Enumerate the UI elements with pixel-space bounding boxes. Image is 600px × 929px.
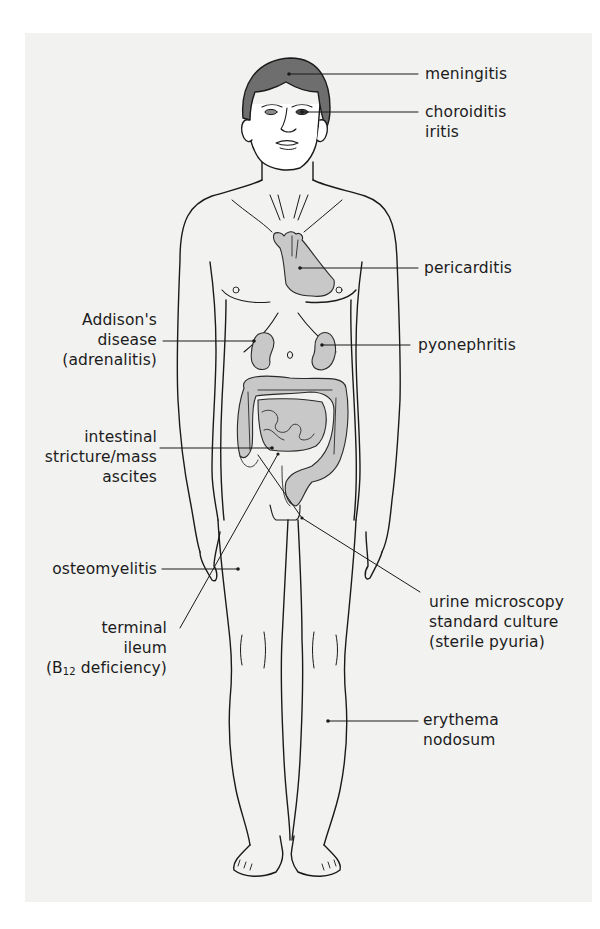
label-line: Addison's xyxy=(62,310,157,330)
label-line: urine microscopy xyxy=(429,592,564,612)
left-kidney xyxy=(251,333,274,370)
label-pyonephritis: pyonephritis xyxy=(418,335,516,355)
label-line: nodosum xyxy=(423,730,499,750)
b12-suffix: deficiency) xyxy=(76,659,167,677)
organs xyxy=(237,232,348,506)
label-line: iritis xyxy=(425,122,506,142)
label-line: standard culture xyxy=(429,612,564,632)
label-line: osteomyelitis xyxy=(52,559,157,579)
label-b12-line: (B12 deficiency) xyxy=(46,658,167,678)
label-choroiditis-iritis: choroiditis iritis xyxy=(425,102,506,142)
label-line: erythema xyxy=(423,710,499,730)
label-intestinal-stricture: intestinal stricture/mass ascites xyxy=(45,427,157,487)
leader-lines xyxy=(160,74,420,721)
label-line: pyonephritis xyxy=(418,335,516,355)
label-line: meningitis xyxy=(425,64,507,84)
label-osteomyelitis: osteomyelitis xyxy=(52,559,157,579)
head xyxy=(242,58,330,170)
label-addisons-disease: Addison's disease (adrenalitis) xyxy=(62,310,157,370)
body-outline xyxy=(177,162,400,581)
label-line: pericarditis xyxy=(424,258,512,278)
label-line: (adrenalitis) xyxy=(62,350,157,370)
b12-subscript: 12 xyxy=(63,666,76,677)
label-line: disease xyxy=(62,330,157,350)
label-line: (sterile pyuria) xyxy=(429,632,564,652)
label-line: ileum xyxy=(46,638,167,658)
legs xyxy=(218,505,356,876)
label-urine-microscopy: urine microscopy standard culture (steri… xyxy=(429,592,564,652)
label-line: stricture/mass xyxy=(45,447,157,467)
label-line: choroiditis xyxy=(425,102,506,122)
label-line: intestinal xyxy=(45,427,157,447)
leader-terminal-ileum xyxy=(180,454,278,628)
label-line: ascites xyxy=(45,467,157,487)
label-meningitis: meningitis xyxy=(425,64,507,84)
right-kidney xyxy=(312,333,335,371)
label-line: terminal xyxy=(46,618,167,638)
label-pericarditis: pericarditis xyxy=(424,258,512,278)
b12-prefix: (B xyxy=(46,659,63,677)
label-erythema-nodosum: erythema nodosum xyxy=(423,710,499,750)
heart xyxy=(273,232,334,297)
label-terminal-ileum: terminal ileum (B12 deficiency) xyxy=(46,618,167,678)
